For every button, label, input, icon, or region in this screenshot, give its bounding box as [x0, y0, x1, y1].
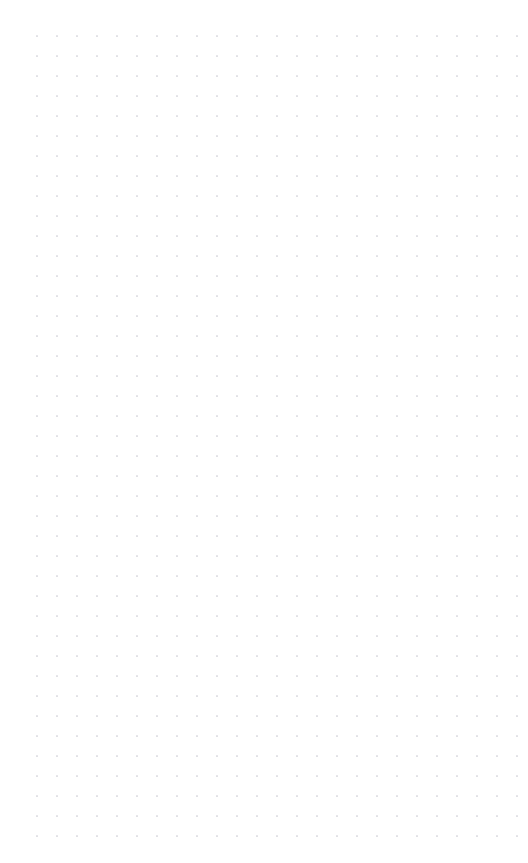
dot-grid-canvas[interactable] — [0, 0, 528, 863]
canvas-content-area[interactable] — [0, 0, 528, 863]
